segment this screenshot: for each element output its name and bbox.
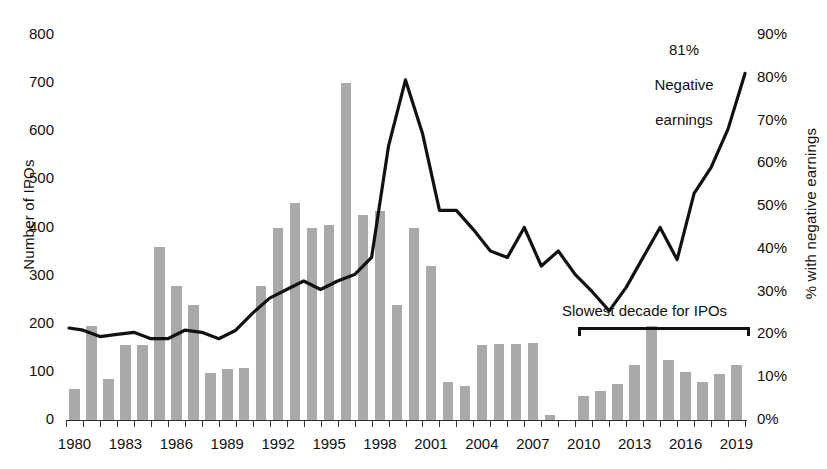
bar-1992 (273, 228, 284, 421)
x-tick-mark-2006 (507, 421, 508, 427)
bar-1984 (137, 345, 148, 420)
x-tick-mark-2018 (711, 421, 712, 427)
bar-2010 (578, 396, 589, 420)
left-tick-500: 500 (8, 169, 54, 186)
left-tick-700: 700 (8, 73, 54, 90)
bar-1998 (375, 211, 386, 420)
bar-2001 (426, 266, 437, 420)
x-tick-mark-1988 (202, 421, 203, 427)
x-tick-mark-end (745, 421, 746, 427)
bar-1997 (358, 215, 369, 420)
cropped-title-remnant (0, 0, 827, 8)
bar-2016 (680, 372, 691, 420)
bar-2013 (629, 365, 640, 420)
negative-earnings-annotation-line1: 81% (624, 41, 744, 58)
x-tick-mark-1980 (66, 421, 67, 427)
bar-1991 (256, 286, 267, 420)
bar-2000 (409, 228, 420, 421)
bar-2007 (528, 343, 539, 420)
bar-2008 (545, 415, 556, 420)
bar-1981 (86, 326, 97, 420)
bar-2012 (612, 384, 623, 420)
slowest-decade-bracket (578, 327, 750, 337)
x-tick-mark-2010 (575, 421, 576, 427)
x-tick-mark-2012 (609, 421, 610, 427)
right-tick-10pct: 10% (757, 367, 817, 384)
bar-2014 (646, 326, 657, 420)
bar-1989 (222, 369, 233, 420)
left-tick-400: 400 (8, 218, 54, 235)
x-tick-mark-1981 (83, 421, 84, 427)
left-tick-600: 600 (8, 121, 54, 138)
bar-2002 (443, 382, 454, 421)
x-tick-mark-1984 (134, 421, 135, 427)
x-tick-mark-1996 (338, 421, 339, 427)
left-tick-100: 100 (8, 362, 54, 379)
left-tick-200: 200 (8, 314, 54, 331)
bar-1994 (307, 228, 318, 421)
bar-1996 (341, 83, 352, 420)
x-tick-mark-2017 (694, 421, 695, 427)
x-tick-mark-2013 (626, 421, 627, 427)
left-tick-300: 300 (8, 266, 54, 283)
right-tick-40pct: 40% (757, 239, 817, 256)
bar-1990 (239, 368, 250, 420)
x-tick-mark-1989 (219, 421, 220, 427)
bar-2018 (714, 374, 725, 420)
bar-2004 (477, 345, 488, 420)
bar-2006 (511, 344, 522, 420)
right-tick-50pct: 50% (757, 196, 817, 213)
bar-2015 (663, 360, 674, 420)
bar-1993 (290, 203, 301, 420)
bar-2017 (697, 382, 708, 421)
right-tick-20pct: 20% (757, 324, 817, 341)
x-tick-mark-1999 (389, 421, 390, 427)
x-tick-mark-1994 (304, 421, 305, 427)
negative-earnings-annotation-line3: earnings (624, 111, 744, 128)
x-axis-line (66, 420, 747, 421)
x-tick-mark-1982 (100, 421, 101, 427)
right-tick-60pct: 60% (757, 153, 817, 170)
x-tick-mark-2007 (524, 421, 525, 427)
x-tick-mark-2014 (643, 421, 644, 427)
bar-2003 (460, 386, 471, 420)
bar-2005 (494, 344, 505, 420)
x-tick-mark-1998 (372, 421, 373, 427)
bar-1988 (205, 373, 216, 420)
x-tick-mark-2002 (439, 421, 440, 427)
left-tick-0: 0 (8, 410, 54, 427)
x-tick-mark-2015 (660, 421, 661, 427)
x-tick-mark-1985 (151, 421, 152, 427)
x-tick-mark-1997 (355, 421, 356, 427)
right-tick-70pct: 70% (757, 111, 817, 128)
bar-1985 (154, 247, 165, 420)
bracket-right-tip (747, 327, 750, 336)
x-tick-2019: 2019 (707, 435, 767, 452)
bracket-left-tip (578, 327, 581, 336)
slowest-decade-annotation: Slowest decade for IPOs (562, 302, 772, 319)
bar-1987 (188, 305, 199, 420)
x-tick-mark-2004 (473, 421, 474, 427)
x-tick-mark-1983 (117, 421, 118, 427)
x-tick-mark-2009 (558, 421, 559, 427)
bracket-horizontal-line (578, 327, 750, 330)
x-tick-mark-1987 (185, 421, 186, 427)
bar-1999 (392, 305, 403, 420)
x-tick-mark-1995 (321, 421, 322, 427)
right-tick-30pct: 30% (757, 282, 817, 299)
ipo-chart: Number of IPOs % with negative earnings … (0, 0, 827, 469)
right-tick-80pct: 80% (757, 68, 817, 85)
bar-1980 (69, 389, 80, 420)
x-tick-mark-2011 (592, 421, 593, 427)
x-tick-mark-1993 (287, 421, 288, 427)
x-tick-mark-2003 (456, 421, 457, 427)
negative-earnings-annotation-line2: Negative (624, 76, 744, 93)
bar-2019 (731, 365, 742, 420)
bar-1986 (171, 286, 182, 420)
bar-1983 (120, 345, 131, 420)
x-tick-mark-2000 (406, 421, 407, 427)
x-tick-mark-1991 (253, 421, 254, 427)
x-tick-mark-1992 (270, 421, 271, 427)
x-tick-mark-1986 (168, 421, 169, 427)
bar-1982 (103, 379, 114, 420)
